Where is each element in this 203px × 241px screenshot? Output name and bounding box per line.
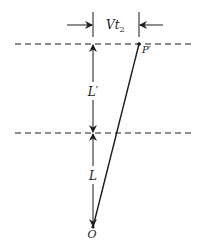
l-label: L: [88, 169, 97, 183]
p-prime-label: P′: [141, 44, 152, 55]
o-label: O: [87, 228, 96, 241]
slanted-line-o-to-p-prime: [93, 44, 139, 227]
l-prime-label: L′: [87, 85, 99, 99]
diagram-canvas: Vt2 L′ L P′ O: [0, 0, 203, 241]
point-p-prime-icon: [137, 42, 141, 46]
vt2-label: Vt2: [106, 18, 125, 34]
